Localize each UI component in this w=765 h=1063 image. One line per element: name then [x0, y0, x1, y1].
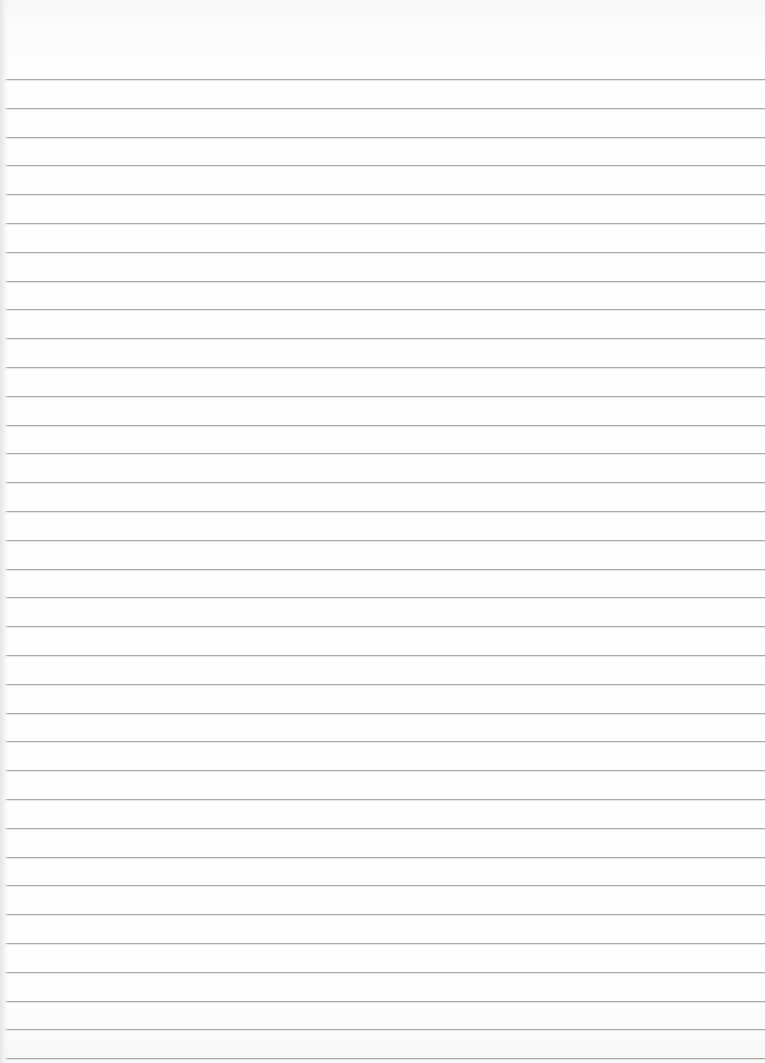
ruled-line	[0, 626, 765, 627]
ruled-line	[0, 425, 765, 426]
ruled-line	[0, 482, 765, 483]
ruled-line	[0, 165, 765, 166]
ruled-line	[0, 309, 765, 310]
ruled-line	[0, 770, 765, 771]
ruled-line	[0, 569, 765, 570]
ruled-line	[0, 684, 765, 685]
ruled-line	[0, 857, 765, 858]
ruled-line	[0, 1029, 765, 1030]
ruled-line	[0, 79, 765, 80]
ruled-line	[0, 713, 765, 714]
ruled-line	[0, 108, 765, 109]
ruled-line	[0, 511, 765, 512]
ruled-line	[0, 828, 765, 829]
left-edge-shadow	[0, 0, 8, 1063]
ruled-line	[0, 194, 765, 195]
ruled-line	[0, 1001, 765, 1002]
bottom-margin-texture	[0, 1003, 765, 1063]
lined-paper-sheet	[0, 0, 765, 1063]
ruled-line	[0, 137, 765, 138]
ruled-line	[0, 396, 765, 397]
ruled-line	[0, 1058, 765, 1059]
ruled-line	[0, 281, 765, 282]
ruled-line	[0, 885, 765, 886]
ruled-line	[0, 799, 765, 800]
ruled-line	[0, 223, 765, 224]
ruled-line	[0, 540, 765, 541]
ruled-line	[0, 367, 765, 368]
ruled-line	[0, 972, 765, 973]
ruled-line	[0, 943, 765, 944]
ruled-line	[0, 741, 765, 742]
ruled-line	[0, 597, 765, 598]
ruled-line	[0, 655, 765, 656]
ruled-line	[0, 252, 765, 253]
ruled-line	[0, 914, 765, 915]
top-margin-texture	[0, 0, 765, 70]
ruled-line	[0, 453, 765, 454]
ruled-line	[0, 338, 765, 339]
